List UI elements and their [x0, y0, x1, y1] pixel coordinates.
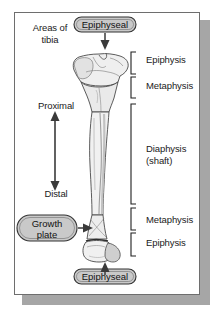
arrow-head-up [51, 111, 60, 121]
callout-top-arrow-head [101, 40, 110, 50]
region-brackets [131, 52, 136, 256]
callout-growth-label-line2: plate [37, 229, 58, 240]
medial-malleolus-shape [105, 243, 120, 262]
callout-top-label: Epiphyseal [76, 20, 134, 31]
figure-title-line1: Areas of [33, 22, 68, 33]
label-distal: Distal [32, 188, 80, 199]
callout-growth-label: Growthplate [20, 219, 74, 240]
distal-metaphysis-bracket [131, 208, 136, 230]
callout-bottom-label: Epiphyseal [76, 272, 134, 283]
distal-epiphysis-bracket [131, 233, 136, 256]
proximal-metaphysis-bracket [131, 77, 136, 98]
figure-title: Areas oftibia [20, 22, 80, 45]
label-metaphysis-distal: Metaphysis [146, 214, 193, 225]
label-epiphysis-distal: Epiphysis [146, 237, 186, 248]
proximal-distal-double-arrow [51, 111, 60, 191]
proximal-metaphysis-shape [81, 82, 118, 112]
label-metaphysis-proximal: Metaphysis [146, 80, 193, 91]
label-epiphysis-proximal: Epiphysis [146, 54, 186, 65]
callout-growth-label-line1: Growth [32, 218, 63, 229]
figure-title-line2: tibia [42, 34, 59, 45]
label-proximal: Proximal [28, 100, 84, 111]
label-diaphysis-line2: (shaft) [146, 155, 172, 166]
label-diaphysis: Diaphysis(shaft) [146, 143, 186, 166]
proximal-epiphysis-bracket [131, 52, 136, 74]
tibia-illustration [73, 53, 128, 262]
label-diaphysis-line1: Diaphysis [146, 143, 186, 154]
diaphysis-bracket [131, 104, 136, 204]
tibia-anatomy-figure: Areas oftibia Proximal Distal Epiphysis … [0, 0, 218, 313]
